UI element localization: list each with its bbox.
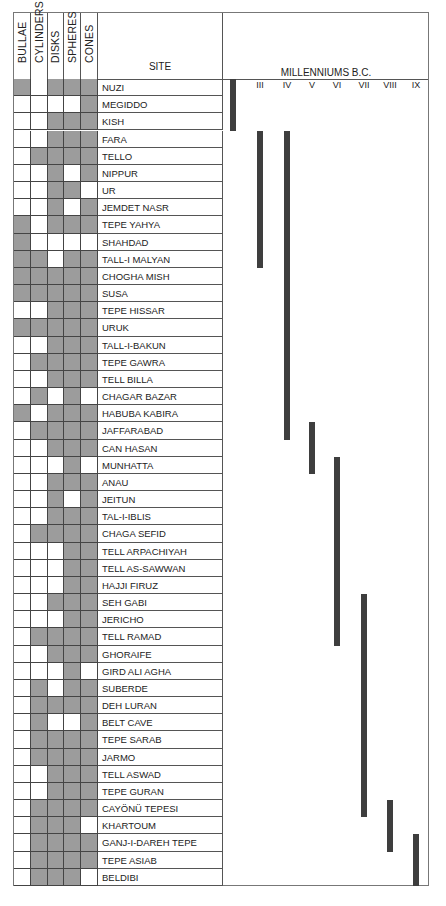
token-cell-spheres: [64, 611, 81, 628]
token-cell-disks: [48, 148, 65, 165]
token-cell-disks: [48, 491, 65, 508]
site-name: JEITUN: [98, 491, 223, 508]
token-cell-disks: [48, 199, 65, 216]
token-cell-disks: [48, 337, 65, 354]
site-name: TAL-I-IBLIS: [98, 508, 223, 525]
token-cell-cones: [81, 783, 98, 800]
token-cell-spheres: [64, 388, 81, 405]
token-cell-spheres: [64, 113, 81, 130]
table-row: TEPE SARAB: [14, 731, 223, 748]
millennium-label: VII: [358, 80, 369, 90]
site-name: JARMO: [98, 749, 223, 766]
token-cell-disks: [48, 251, 65, 268]
token-cell-disks: [48, 577, 65, 594]
millennium-label: III: [256, 80, 264, 90]
site-name: MUNHATTA: [98, 457, 223, 474]
token-cell-cylinders: [31, 543, 48, 560]
millennium-label: V: [309, 80, 315, 90]
token-cell-cylinders: [31, 131, 48, 148]
token-cell-spheres: [64, 337, 81, 354]
token-cell-cylinders: [31, 182, 48, 199]
token-cell-cylinders: [31, 234, 48, 251]
token-cell-cones: [81, 96, 98, 113]
token-cell-cones: [81, 766, 98, 783]
token-cell-bullae: [14, 680, 31, 697]
token-cell-disks: [48, 474, 65, 491]
token-cell-cones: [81, 680, 98, 697]
token-cell-cylinders: [31, 388, 48, 405]
token-cell-cones: [81, 388, 98, 405]
token-cell-cylinders: [31, 508, 48, 525]
token-cell-bullae: [14, 646, 31, 663]
site-name: CHOGHA MISH: [98, 268, 223, 285]
token-cell-spheres: [64, 680, 81, 697]
token-cell-cones: [81, 165, 98, 182]
table-row: TELLO: [14, 148, 223, 165]
token-cell-cones: [81, 337, 98, 354]
site-name: URUK: [98, 319, 223, 336]
table-row: TEPE HISSAR: [14, 302, 223, 319]
token-cell-disks: [48, 663, 65, 680]
token-cell-cones: [81, 182, 98, 199]
token-cell-bullae: [14, 337, 31, 354]
site-name: HAJJI FIRUZ: [98, 577, 223, 594]
token-cell-bullae: [14, 783, 31, 800]
column-header-cylinders: CYLINDERS: [31, 13, 48, 79]
table-row: GIRD ALI AGHA: [14, 663, 223, 680]
site-name: HABUBA KABIRA: [98, 405, 223, 422]
table-row: CAN HASAN: [14, 440, 223, 457]
token-cell-cones: [81, 440, 98, 457]
token-cell-bullae: [14, 405, 31, 422]
token-cell-bullae: [14, 525, 31, 542]
token-cell-bullae: [14, 285, 31, 302]
site-name: JAFFARABAD: [98, 422, 223, 439]
table-row: FARA: [14, 131, 223, 148]
token-cell-cylinders: [31, 611, 48, 628]
token-cell-bullae: [14, 354, 31, 371]
disks-label: DISKS: [49, 30, 61, 63]
token-cell-cones: [81, 628, 98, 645]
table-row: TEPE ASIAB: [14, 852, 223, 869]
table-row: TELL BILLA: [14, 371, 223, 388]
token-cell-spheres: [64, 182, 81, 199]
site-name: NIPPUR: [98, 165, 223, 182]
timeline-bar-vii: [361, 594, 367, 817]
token-cell-disks: [48, 508, 65, 525]
token-cell-cones: [81, 474, 98, 491]
token-cell-spheres: [64, 148, 81, 165]
token-cell-cones: [81, 852, 98, 869]
table-row: KISH: [14, 113, 223, 130]
site-name: CAYÖNÜ TEPESI: [98, 800, 223, 817]
token-cell-cones: [81, 525, 98, 542]
token-cell-cones: [81, 199, 98, 216]
token-cell-cylinders: [31, 371, 48, 388]
token-cell-spheres: [64, 800, 81, 817]
token-cell-cylinders: [31, 216, 48, 233]
token-cell-spheres: [64, 354, 81, 371]
table-row: UR: [14, 182, 223, 199]
token-cell-cylinders: [31, 749, 48, 766]
token-cell-bullae: [14, 422, 31, 439]
table-row: SEH GABI: [14, 594, 223, 611]
token-cell-cones: [81, 491, 98, 508]
token-cell-bullae: [14, 852, 31, 869]
token-cell-bullae: [14, 199, 31, 216]
token-cell-bullae: [14, 611, 31, 628]
token-cell-disks: [48, 405, 65, 422]
token-cell-bullae: [14, 216, 31, 233]
token-cell-disks: [48, 697, 65, 714]
table-row: GANJ-I-DAREH TEPE: [14, 834, 223, 851]
token-cell-spheres: [64, 817, 81, 834]
token-cell-bullae: [14, 628, 31, 645]
token-cell-spheres: [64, 525, 81, 542]
token-cell-bullae: [14, 834, 31, 851]
bullae-label: BULLAE: [16, 22, 28, 63]
token-cell-cylinders: [31, 525, 48, 542]
token-cell-cones: [81, 79, 98, 96]
token-cell-disks: [48, 560, 65, 577]
token-cell-cones: [81, 251, 98, 268]
site-name: KHARTOUM: [98, 817, 223, 834]
token-cell-cones: [81, 714, 98, 731]
token-cell-disks: [48, 131, 65, 148]
table-row: URUK: [14, 319, 223, 336]
